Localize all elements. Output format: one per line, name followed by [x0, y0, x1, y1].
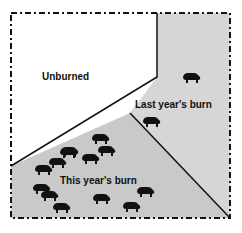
burn-diagram — [0, 0, 242, 233]
label-this-year: This year's burn — [60, 175, 137, 186]
label-last-year: Last year's burn — [135, 99, 212, 110]
label-unburned: Unburned — [42, 71, 89, 82]
